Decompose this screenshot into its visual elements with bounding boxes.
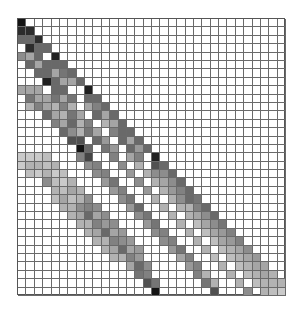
heatmap-cell [186, 86, 194, 94]
heatmap-cell [253, 262, 261, 270]
heatmap-cell [194, 237, 202, 245]
heatmap-cell [119, 36, 127, 44]
heatmap-cell [152, 212, 160, 220]
heatmap-cell [227, 44, 235, 52]
heatmap-cell [227, 153, 235, 161]
heatmap-cell [43, 61, 51, 69]
heatmap-cell [144, 19, 152, 27]
heatmap-cell [253, 145, 261, 153]
heatmap-cell [219, 69, 227, 77]
heatmap-cell [194, 120, 202, 128]
heatmap-cell [202, 120, 210, 128]
heatmap-cell [43, 120, 51, 128]
heatmap-cell [85, 170, 93, 178]
heatmap-cell [169, 36, 177, 44]
heatmap-cell [186, 279, 194, 287]
heatmap-cell [85, 153, 93, 161]
heatmap-cell [278, 69, 286, 77]
heatmap-cell [77, 262, 85, 270]
heatmap-cell [269, 19, 277, 27]
heatmap-cell [119, 103, 127, 111]
heatmap-cell [227, 69, 235, 77]
heatmap-cell [269, 271, 277, 279]
heatmap-cell [127, 220, 135, 228]
heatmap-cell [244, 254, 252, 262]
heatmap-cell [85, 271, 93, 279]
heatmap-cell [160, 162, 168, 170]
heatmap-cell [26, 137, 34, 145]
heatmap-cell [102, 254, 110, 262]
heatmap-cell [135, 36, 143, 44]
heatmap-cell [194, 271, 202, 279]
heatmap-cell [211, 212, 219, 220]
heatmap-cell [60, 229, 68, 237]
heatmap-cell [202, 128, 210, 136]
heatmap-cell [35, 229, 43, 237]
heatmap-cell [85, 187, 93, 195]
heatmap-cell [144, 111, 152, 119]
heatmap-cell [77, 95, 85, 103]
heatmap-cell [236, 288, 244, 296]
heatmap-cell [202, 246, 210, 254]
heatmap-cell [244, 53, 252, 61]
heatmap-cell [244, 19, 252, 27]
heatmap-cell [160, 137, 168, 145]
heatmap-cell [35, 195, 43, 203]
heatmap-cell [60, 120, 68, 128]
heatmap-cell [202, 27, 210, 35]
heatmap-cell [144, 288, 152, 296]
heatmap-cell [236, 27, 244, 35]
heatmap-cell [186, 229, 194, 237]
heatmap-cell [93, 204, 101, 212]
heatmap-cell [152, 204, 160, 212]
heatmap-cell [202, 86, 210, 94]
heatmap-cell [236, 178, 244, 186]
heatmap-cell [194, 170, 202, 178]
heatmap-cell [169, 19, 177, 27]
heatmap-cell [18, 69, 26, 77]
heatmap-cell [26, 36, 34, 44]
heatmap-cell [26, 61, 34, 69]
heatmap-cell [85, 78, 93, 86]
heatmap-cell [77, 86, 85, 94]
heatmap-cell [52, 95, 60, 103]
heatmap-cell [102, 36, 110, 44]
heatmap-cell [52, 237, 60, 245]
heatmap-cell [227, 78, 235, 86]
heatmap-cell [194, 95, 202, 103]
heatmap-cell [261, 279, 269, 287]
heatmap-cell [135, 204, 143, 212]
heatmap-cell [52, 212, 60, 220]
heatmap-cell [144, 53, 152, 61]
heatmap-cell [144, 162, 152, 170]
heatmap-cell [278, 19, 286, 27]
heatmap-cell [110, 178, 118, 186]
heatmap-cell [110, 137, 118, 145]
heatmap-cell [219, 128, 227, 136]
heatmap-cell [43, 111, 51, 119]
heatmap-cell [144, 271, 152, 279]
heatmap-cell [119, 195, 127, 203]
heatmap-cell [261, 145, 269, 153]
heatmap-cell [152, 86, 160, 94]
heatmap-cell [110, 36, 118, 44]
heatmap-cell [35, 36, 43, 44]
heatmap-cell [93, 86, 101, 94]
heatmap-cell [135, 44, 143, 52]
heatmap-cell [68, 128, 76, 136]
heatmap-cell [144, 254, 152, 262]
heatmap-cell [93, 69, 101, 77]
heatmap-cell [77, 145, 85, 153]
heatmap-cell [152, 220, 160, 228]
heatmap-cell [135, 246, 143, 254]
heatmap-cell [135, 19, 143, 27]
heatmap-cell [102, 288, 110, 296]
heatmap-cell [244, 44, 252, 52]
heatmap-cell [278, 229, 286, 237]
heatmap-cell [35, 246, 43, 254]
heatmap-cell [219, 170, 227, 178]
heatmap-cell [253, 137, 261, 145]
heatmap-cell [110, 86, 118, 94]
heatmap-cell [102, 137, 110, 145]
heatmap-cell [77, 187, 85, 195]
